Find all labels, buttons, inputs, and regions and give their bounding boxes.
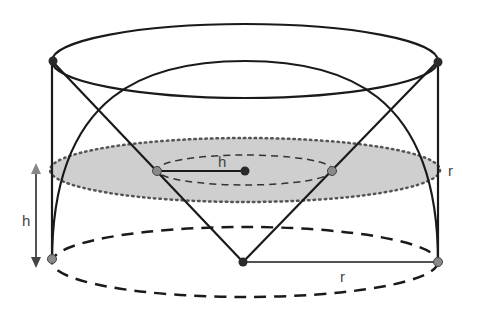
- point-top-left: [49, 57, 58, 66]
- point-bottom-right: [434, 258, 443, 267]
- point-top-right: [434, 58, 443, 67]
- height-arrow: [31, 163, 41, 268]
- label-h-center: h: [218, 153, 226, 170]
- point-section-right: [328, 167, 337, 176]
- label-r-right: r: [448, 162, 453, 179]
- point-section-left: [153, 167, 162, 176]
- label-h-left: h: [22, 212, 30, 229]
- label-r-bottom: r: [340, 268, 345, 285]
- point-section-center: [241, 167, 250, 176]
- cylinder-diagram: h h r r: [0, 0, 477, 310]
- point-bottom-center: [239, 258, 248, 267]
- point-bottom-left: [48, 255, 57, 264]
